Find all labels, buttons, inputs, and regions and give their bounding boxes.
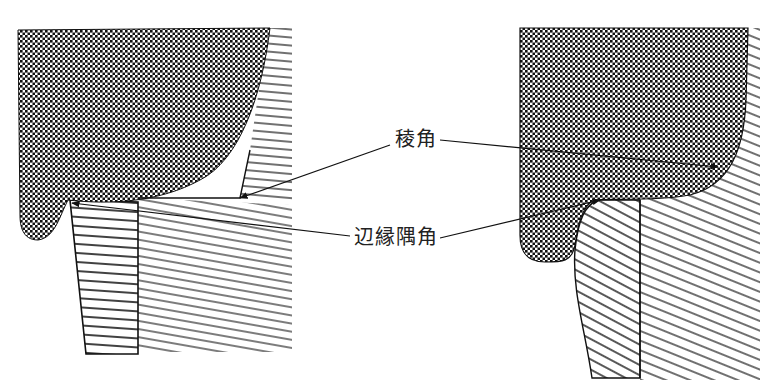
right-chip: [575, 200, 640, 378]
label-edge-corner: 辺縁隅角: [352, 226, 440, 248]
left-chip: [70, 200, 138, 354]
left-panel: [18, 28, 292, 354]
right-panel: [520, 28, 760, 380]
diagram-canvas: [0, 0, 770, 387]
label-ridge-corner: 稜角: [393, 128, 439, 150]
left-workpiece-lower: [138, 198, 292, 352]
